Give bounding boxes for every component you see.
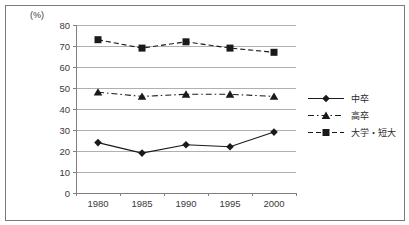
svg-text:1990: 1990	[175, 198, 196, 209]
legend-label-kosotsu: 高卒	[351, 109, 369, 122]
svg-text:30: 30	[59, 125, 70, 136]
svg-text:10: 10	[59, 167, 70, 178]
svg-text:1985: 1985	[131, 198, 152, 209]
svg-text:0: 0	[65, 188, 70, 199]
svg-text:1980: 1980	[87, 198, 108, 209]
svg-text:60: 60	[59, 62, 70, 73]
legend-line-sample-dashed-square	[307, 127, 345, 138]
legend-item-daigaku-tandai: 大学・短大	[307, 127, 396, 138]
legend-label-chusotsu: 中卒	[351, 92, 369, 105]
svg-text:50: 50	[59, 83, 70, 94]
legend-item-kosotsu: 高卒	[307, 110, 396, 121]
legend-line-sample-dashdot-triangle	[307, 110, 345, 121]
svg-text:1995: 1995	[219, 198, 240, 209]
legend-item-chusotsu: 中卒	[307, 93, 396, 104]
y-axis-unit-label: (%)	[30, 10, 44, 20]
svg-text:80: 80	[59, 20, 70, 31]
svg-text:20: 20	[59, 146, 70, 157]
svg-text:40: 40	[59, 104, 70, 115]
legend-line-sample-solid-diamond	[307, 93, 345, 104]
chart-legend: 中卒 高卒 大学・短大	[307, 93, 396, 138]
svg-text:2000: 2000	[263, 198, 284, 209]
svg-text:70: 70	[59, 41, 70, 52]
legend-label-daigaku-tandai: 大学・短大	[351, 126, 396, 139]
